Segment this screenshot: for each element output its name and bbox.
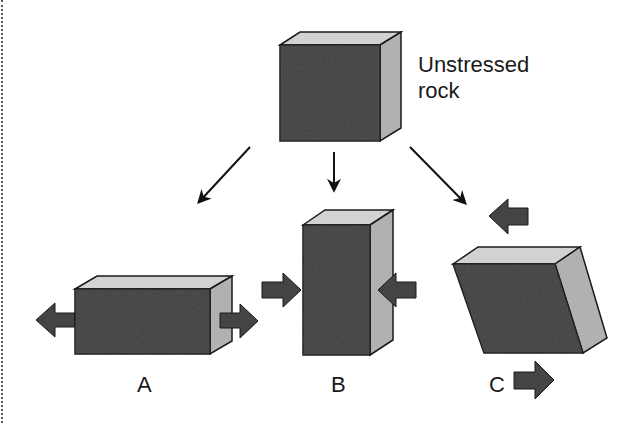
unstressed-label-line2: rock	[418, 78, 461, 103]
box-a-top-face	[75, 276, 232, 289]
tension-arrow-left-icon	[36, 303, 75, 337]
shear-arrow-left-icon	[489, 199, 528, 234]
shear-arrow-right-icon	[514, 361, 554, 399]
panel-c-label: C	[489, 372, 505, 397]
compression-arrow-right-icon	[262, 273, 301, 307]
panel-a-label: A	[137, 372, 152, 397]
pointer-arrow-to-c	[410, 147, 465, 203]
unstressed-label-line1: Unstressed	[418, 52, 529, 77]
pointer-arrow-to-a	[199, 147, 250, 202]
cube-side-face	[380, 32, 401, 141]
panel-b-compression	[262, 210, 416, 355]
panel-b-label: B	[331, 372, 346, 397]
unstressed-rock-cube	[280, 32, 401, 141]
rock-stress-diagram: Unstressed rock A B C	[0, 0, 639, 423]
panel-a-tension	[36, 276, 258, 354]
panel-c-shear	[453, 199, 607, 399]
